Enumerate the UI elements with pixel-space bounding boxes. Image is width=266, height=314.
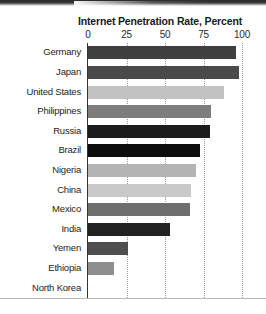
bar-row <box>88 46 242 59</box>
bar-russia <box>88 125 210 138</box>
category-label-nigeria: Nigeria <box>0 164 84 175</box>
x-tick-label-50: 50 <box>150 29 180 40</box>
bottom-rule <box>0 298 266 299</box>
bar-row <box>88 125 242 138</box>
bar-united-states <box>88 86 224 99</box>
category-label-north-korea: North Korea <box>0 282 84 293</box>
bar-germany <box>88 46 236 59</box>
category-label-ethiopia: Ethiopia <box>0 262 84 273</box>
bar-row <box>88 184 242 197</box>
bar-yemen <box>88 242 128 255</box>
x-axis-tick-labels: 0255075100 <box>0 29 266 42</box>
bar-row <box>88 86 242 99</box>
category-label-philippines: Philippines <box>0 105 84 116</box>
bar-india <box>88 223 170 236</box>
bar-row <box>88 223 242 236</box>
x-tick-label-0: 0 <box>73 29 103 40</box>
bar-ethiopia <box>88 262 114 275</box>
gridline-100 <box>242 43 243 298</box>
bar-china <box>88 184 191 197</box>
bar-row <box>88 105 242 118</box>
category-label-yemen: Yemen <box>0 242 84 253</box>
bar-mexico <box>88 203 190 216</box>
bar-row <box>88 282 242 295</box>
bar-brazil <box>88 144 200 157</box>
category-label-china: China <box>0 184 84 195</box>
bar-series <box>88 43 242 298</box>
category-label-germany: Germany <box>0 46 84 57</box>
bar-japan <box>88 66 239 79</box>
category-label-united-states: United States <box>0 86 84 97</box>
x-tick-label-25: 25 <box>112 29 142 40</box>
category-label-japan: Japan <box>0 66 84 77</box>
category-label-india: India <box>0 223 84 234</box>
bar-nigeria <box>88 164 196 177</box>
scan-artifact-highlight <box>74 1 204 6</box>
scan-artifact-band <box>0 0 266 6</box>
bar-row <box>88 242 242 255</box>
bar-row <box>88 66 242 79</box>
bar-row <box>88 164 242 177</box>
category-label-brazil: Brazil <box>0 144 84 155</box>
x-tick-label-100: 100 <box>227 29 257 40</box>
category-label-mexico: Mexico <box>0 203 84 214</box>
x-tick-label-75: 75 <box>189 29 219 40</box>
bar-row <box>88 203 242 216</box>
chart-figure: Internet Penetration Rate, Percent 02550… <box>0 0 266 314</box>
plot-area <box>88 43 242 298</box>
category-label-russia: Russia <box>0 125 84 136</box>
bar-row <box>88 262 242 275</box>
chart-title: Internet Penetration Rate, Percent <box>60 15 260 27</box>
bar-row <box>88 144 242 157</box>
y-axis-category-labels: GermanyJapanUnited StatesPhilippinesRuss… <box>0 43 84 298</box>
bar-philippines <box>88 105 211 118</box>
